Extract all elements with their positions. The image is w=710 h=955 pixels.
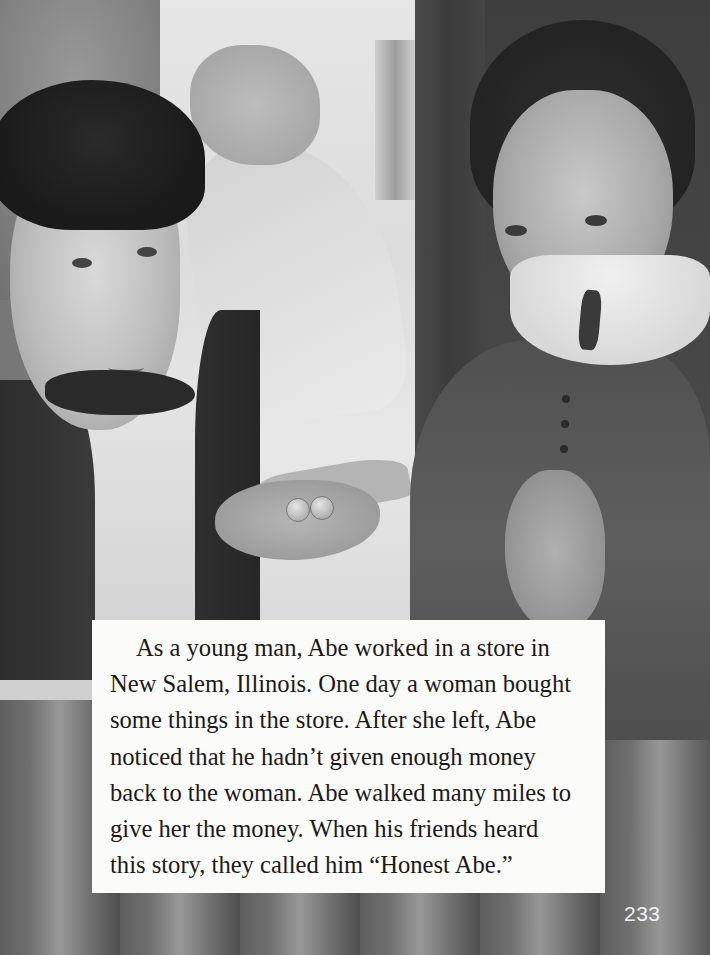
coin (286, 498, 310, 522)
story-line: As a young man, Abe worked in a store in (110, 630, 595, 666)
story-line: give her the money. When his friends hea… (110, 811, 595, 847)
woman-lace-collar (510, 255, 710, 365)
page-number: 233 (624, 902, 661, 926)
abe-eye (72, 258, 92, 268)
woman-eye (585, 215, 607, 226)
dress-button (560, 445, 568, 453)
story-line: this story, they called him “Honest Abe.… (110, 847, 595, 883)
book-page: As a young man, Abe worked in a store in… (0, 0, 710, 955)
story-line: noticed that he hadn’t given enough mone… (110, 739, 595, 775)
story-line: back to the woman. Abe walked many miles… (110, 775, 595, 811)
dress-button (562, 395, 570, 403)
woman-hand (505, 470, 605, 630)
abe-vest-right (195, 310, 260, 640)
coin (310, 496, 334, 520)
abe-eye (137, 247, 157, 257)
story-text-box: As a young man, Abe worked in a store in… (92, 620, 605, 893)
woman-eye (505, 225, 527, 236)
story-paragraph: As a young man, Abe worked in a store in… (110, 630, 595, 883)
dress-button (561, 420, 569, 428)
story-line: some things in the store. After she left… (110, 702, 595, 738)
story-line: New Salem, Illinois. One day a woman bou… (110, 666, 595, 702)
abe-raised-hand (190, 45, 320, 165)
abe-bowtie (45, 370, 195, 415)
window-frame (375, 40, 415, 200)
